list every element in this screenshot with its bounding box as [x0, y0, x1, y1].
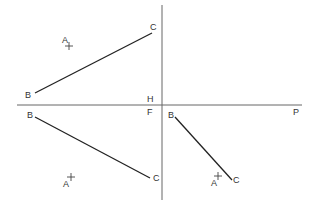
label-b: B	[27, 110, 33, 120]
label-b: B	[25, 90, 31, 100]
segment-bc	[175, 117, 232, 180]
front-view: B C A	[27, 110, 160, 189]
top-view: B C A	[25, 22, 157, 100]
label-a: A	[211, 178, 217, 188]
label-c: C	[153, 173, 160, 183]
label-b: B	[168, 110, 174, 120]
label-a: A	[62, 35, 68, 45]
label-c: C	[150, 22, 157, 32]
label-h: H	[147, 94, 154, 104]
label-a: A	[63, 179, 69, 189]
projection-diagram: H F P B C A B C A B C A	[0, 0, 313, 215]
reference-axes: H F P	[17, 5, 302, 200]
segment-bc	[35, 33, 152, 93]
label-f: F	[147, 107, 153, 117]
segment-bc	[35, 117, 150, 178]
label-c: C	[233, 175, 240, 185]
label-p: P	[293, 107, 299, 117]
profile-view: B C A	[168, 110, 240, 188]
